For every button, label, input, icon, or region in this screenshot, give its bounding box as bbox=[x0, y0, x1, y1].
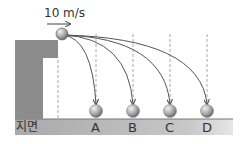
point-label-d: D bbox=[202, 121, 212, 134]
ball-c bbox=[164, 105, 177, 118]
trajectories bbox=[63, 35, 207, 104]
velocity-label: 10 m/s bbox=[44, 7, 85, 19]
cliff bbox=[15, 40, 58, 119]
point-label-c: C bbox=[165, 121, 174, 134]
ball-d bbox=[201, 105, 214, 118]
ball-b bbox=[127, 105, 140, 118]
point-label-b: B bbox=[128, 121, 137, 134]
ground bbox=[15, 119, 233, 135]
point-label-a: A bbox=[91, 121, 100, 134]
ball-launch bbox=[56, 28, 68, 40]
ball-a bbox=[90, 105, 103, 118]
ground-label: 지면 bbox=[16, 121, 38, 133]
